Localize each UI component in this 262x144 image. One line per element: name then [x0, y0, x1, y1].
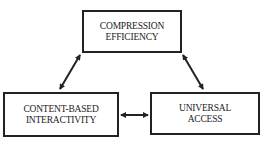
arrow-top-right [183, 55, 203, 89]
node-label-line: CONTENT-BASED [23, 104, 98, 115]
node-content-based-interactivity: CONTENT-BASED INTERACTIVITY [3, 92, 119, 137]
diagram-canvas: COMPRESSION EFFICIENCY CONTENT-BASED INT… [0, 0, 262, 144]
node-universal-access: UNIVERSAL ACCESS [150, 92, 260, 135]
node-label-line: INTERACTIVITY [26, 115, 96, 126]
arrow-top-left [60, 55, 80, 89]
node-compression-efficiency: COMPRESSION EFFICIENCY [82, 10, 182, 53]
node-label-line: EFFICIENCY [106, 32, 159, 43]
node-label-line: COMPRESSION [100, 21, 164, 32]
node-label-line: UNIVERSAL [179, 103, 231, 114]
node-label-line: ACCESS [188, 114, 223, 125]
